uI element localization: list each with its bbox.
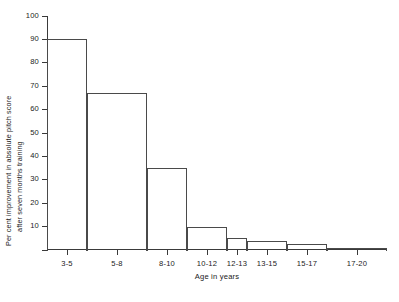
x-axis-tick-label: 8-10 (159, 259, 175, 268)
y-axis-tick-label: 70 (30, 81, 39, 90)
bar (47, 39, 87, 251)
bar (227, 238, 247, 251)
x-axis-tick-label: 17-20 (347, 259, 367, 268)
x-axis-tick-label: 13-15 (257, 259, 277, 268)
histogram-figure: Per cent improvement in absolute pitch s… (0, 0, 399, 302)
y-axis-label-line2: after seven months training (15, 6, 26, 246)
y-axis-label: Per cent improvement in absolute pitch s… (4, 6, 25, 246)
y-axis-tick-label: 40 (30, 151, 39, 160)
y-axis-tick-label: 100 (26, 11, 39, 20)
bar (147, 168, 187, 251)
plot-area: 102030405060708090100 3-55-88-1010-1212-… (47, 16, 387, 250)
y-axis-tick-label: 60 (30, 104, 39, 113)
bar (187, 227, 227, 251)
bar (247, 241, 287, 251)
x-axis-label: Age in years (47, 272, 387, 281)
y-axis-tick-label: 10 (30, 221, 39, 230)
x-axis-tick-label: 10-12 (197, 259, 217, 268)
y-axis-label-line1: Per cent improvement in absolute pitch s… (4, 96, 13, 246)
bar (287, 244, 327, 251)
y-axis-tick-label: 20 (30, 198, 39, 207)
bar (87, 93, 147, 251)
y-axis-tick-label: 30 (30, 174, 39, 183)
x-axis-tick-label: 15-17 (297, 259, 317, 268)
x-axis-tick-label: 3-5 (61, 259, 73, 268)
y-axis-label-wrap: Per cent improvement in absolute pitch s… (0, 0, 34, 252)
y-axis-tick: 100 (42, 16, 47, 17)
x-axis-tick-label: 5-8 (111, 259, 123, 268)
y-axis-tick-label: 50 (30, 128, 39, 137)
y-axis-tick-label: 80 (30, 57, 39, 66)
bar (327, 248, 387, 251)
y-axis-tick-label: 90 (30, 34, 39, 43)
x-axis-tick-label: 12-13 (227, 259, 247, 268)
